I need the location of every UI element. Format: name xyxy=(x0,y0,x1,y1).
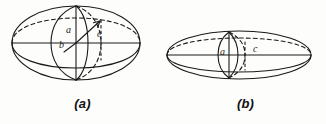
panel-caption-b: (b) xyxy=(165,96,326,111)
figure-panel-b: a c (b) xyxy=(165,0,326,124)
axis-label-b-c: c xyxy=(253,44,257,54)
axis-label-a-b: b xyxy=(59,40,64,50)
figure-panel-a: a b c (a) xyxy=(0,0,165,124)
panel-caption-a: (a) xyxy=(0,96,165,111)
ellipsoid-a-drawing xyxy=(0,0,165,96)
axis-label-b-a: a xyxy=(220,47,225,57)
axis-label-a-c: c xyxy=(97,29,101,39)
axis-label-a-a: a xyxy=(66,25,71,35)
ellipsoid-a-b-tick xyxy=(64,43,76,52)
ellipsoid-b-drawing xyxy=(165,0,326,96)
ellipsoid-b-equator-back xyxy=(167,38,311,55)
figure-canvas: a b c (a) xyxy=(0,0,326,124)
ellipsoid-b-equator-front xyxy=(167,55,311,72)
